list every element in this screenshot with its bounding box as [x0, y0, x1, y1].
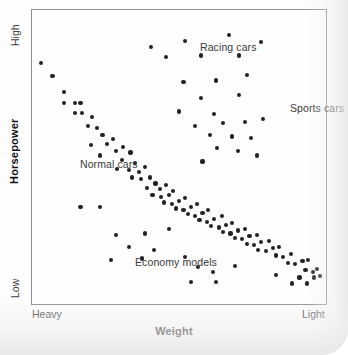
- data-point: [214, 280, 218, 284]
- data-point: [143, 165, 147, 169]
- data-point: [139, 177, 143, 181]
- data-point: [167, 193, 171, 197]
- data-point: [95, 126, 99, 130]
- data-point: [73, 101, 77, 105]
- x-axis-title: Weight: [0, 325, 348, 337]
- data-point: [281, 255, 285, 259]
- data-point: [306, 258, 310, 262]
- data-point: [267, 239, 271, 243]
- data-point: [111, 137, 115, 141]
- data-point: [86, 124, 90, 128]
- data-point: [158, 187, 162, 191]
- data-point: [297, 275, 301, 279]
- data-point: [243, 120, 247, 124]
- data-point: [243, 227, 247, 231]
- data-point: [312, 275, 316, 279]
- data-point: [233, 264, 237, 268]
- data-point: [73, 111, 77, 115]
- y-axis-tick-low: Low: [9, 279, 21, 298]
- data-point: [137, 170, 141, 174]
- data-point: [195, 202, 199, 206]
- data-point: [197, 218, 201, 222]
- data-point: [230, 221, 234, 225]
- data-point: [237, 53, 241, 57]
- data-point: [100, 133, 104, 137]
- data-point: [208, 133, 212, 137]
- data-point: [271, 246, 275, 250]
- data-point: [247, 234, 251, 238]
- annotation-sports-cars: Sports cars: [290, 102, 344, 114]
- data-point: [114, 233, 118, 237]
- data-point: [293, 262, 297, 266]
- data-point: [237, 93, 241, 97]
- data-point: [212, 217, 216, 221]
- data-point: [200, 211, 204, 215]
- data-point: [274, 273, 278, 277]
- data-point: [183, 196, 187, 200]
- annotation-normal-cars: Normal cars: [80, 158, 138, 170]
- data-point: [164, 55, 168, 59]
- data-point: [62, 101, 66, 105]
- data-point: [217, 225, 221, 229]
- data-point: [252, 243, 256, 247]
- y-axis-title: Horsepower: [8, 118, 20, 184]
- data-point: [255, 233, 259, 237]
- plot-area: Racing cars Sports cars Normal cars Econ…: [31, 9, 327, 305]
- data-point: [174, 206, 178, 210]
- data-point: [130, 175, 134, 179]
- data-point: [221, 121, 225, 125]
- data-point: [50, 74, 54, 78]
- data-point: [98, 205, 102, 209]
- data-point: [274, 253, 278, 257]
- data-point: [211, 270, 215, 274]
- data-point: [121, 145, 125, 149]
- data-point: [98, 153, 102, 157]
- data-point: [289, 252, 293, 256]
- data-point: [78, 205, 82, 209]
- data-point: [181, 80, 185, 84]
- data-point: [300, 259, 304, 263]
- data-point: [214, 78, 218, 82]
- y-axis-tick-high: High: [9, 24, 21, 46]
- data-point: [164, 183, 168, 187]
- data-point: [183, 39, 187, 43]
- data-point: [264, 249, 268, 253]
- data-point: [228, 231, 232, 235]
- data-point: [159, 195, 163, 199]
- annotation-racing-cars: Racing cars: [200, 41, 257, 53]
- data-point: [105, 142, 109, 146]
- data-point: [286, 261, 290, 265]
- data-point: [127, 245, 131, 249]
- data-point: [181, 208, 185, 212]
- data-point: [128, 150, 132, 154]
- data-point: [145, 186, 149, 190]
- data-point: [143, 231, 147, 235]
- annotation-economy-models: Economy models: [135, 256, 217, 268]
- data-point: [212, 112, 216, 116]
- data-point: [215, 146, 219, 150]
- data-point: [167, 227, 171, 231]
- data-point: [150, 193, 154, 197]
- data-point: [90, 115, 94, 119]
- data-point: [259, 40, 263, 44]
- data-point: [177, 109, 181, 113]
- data-point: [78, 101, 82, 105]
- data-point: [236, 228, 240, 232]
- data-point: [62, 90, 66, 94]
- data-point: [114, 149, 118, 153]
- data-point: [305, 281, 309, 285]
- data-point: [189, 205, 193, 209]
- data-point: [209, 224, 213, 228]
- data-point: [230, 134, 234, 138]
- data-point: [221, 230, 225, 234]
- data-point: [277, 245, 281, 249]
- data-point: [200, 159, 204, 163]
- data-point: [80, 111, 84, 115]
- data-point: [39, 61, 43, 65]
- data-point: [256, 248, 260, 252]
- data-point: [170, 202, 174, 206]
- data-point: [109, 258, 113, 262]
- data-point: [290, 281, 294, 285]
- x-axis-tick-light: Light: [302, 308, 325, 320]
- data-point: [245, 242, 249, 246]
